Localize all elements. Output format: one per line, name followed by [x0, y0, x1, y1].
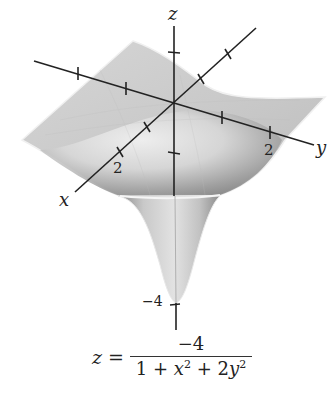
- x-tick-label-2: 2: [113, 159, 123, 177]
- lhs-var: z: [92, 346, 102, 368]
- numerator: −4: [178, 333, 205, 356]
- equals-sign: =: [108, 346, 124, 368]
- equation-lhs: z =: [92, 346, 124, 368]
- y-tick-label-2: 2: [264, 141, 274, 159]
- x-axis-label: x: [59, 189, 69, 210]
- z-axis-label: z: [167, 3, 178, 24]
- surface-equation: z = −4 1 + x2 + 2y2: [0, 333, 329, 393]
- fraction: −4 1 + x2 + 2y2: [130, 333, 252, 379]
- y-axis-label: y: [315, 137, 327, 158]
- denominator: 1 + x2 + 2y2: [136, 357, 246, 379]
- z-tick-label-neg4: −4: [142, 293, 163, 309]
- surface-funnel: [118, 196, 220, 303]
